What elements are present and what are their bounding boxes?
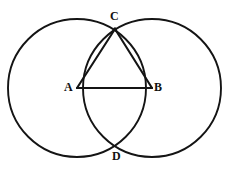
vertex-label-c: C [110,10,119,22]
segment-ac [77,29,115,88]
geometry-canvas [0,0,229,171]
vertex-label-a: A [64,81,73,93]
vertex-label-d: D [112,150,121,162]
segment-bc [115,29,152,88]
vertex-point-c [113,27,116,30]
geometry-figure: C A B D [0,0,229,171]
vertex-label-b: B [154,81,162,93]
